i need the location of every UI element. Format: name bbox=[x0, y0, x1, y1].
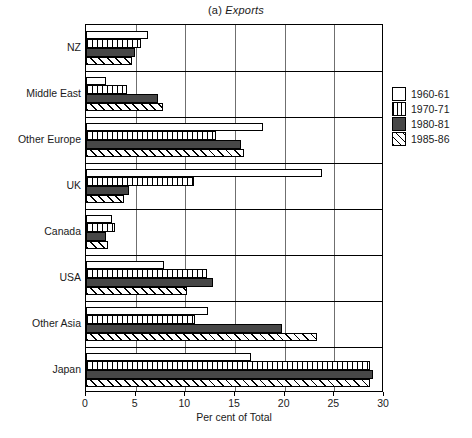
exports-bar-chart: (a) Exports NZMiddle EastOther EuropeUKC… bbox=[0, 0, 472, 438]
bar bbox=[86, 85, 127, 94]
bar bbox=[86, 333, 317, 342]
category-label: NZ bbox=[67, 41, 81, 53]
bar bbox=[86, 94, 158, 103]
bar-group bbox=[86, 209, 382, 255]
plot-area bbox=[85, 24, 383, 392]
legend-item: 1980-81 bbox=[392, 116, 468, 131]
x-tick-label: 25 bbox=[327, 397, 339, 409]
category-label: Canada bbox=[44, 225, 81, 237]
chart-legend: 1960-611970-711980-811985-86 bbox=[392, 86, 468, 146]
group-separator bbox=[86, 301, 382, 302]
legend-label: 1970-71 bbox=[411, 103, 450, 115]
group-separator bbox=[86, 255, 382, 256]
bar bbox=[86, 195, 124, 204]
x-tick bbox=[333, 392, 334, 396]
category-label: Other Asia bbox=[32, 317, 81, 329]
bar bbox=[86, 131, 216, 140]
x-tick bbox=[383, 392, 384, 396]
legend-swatch bbox=[392, 102, 406, 116]
x-tick bbox=[234, 392, 235, 396]
category-label: UK bbox=[66, 179, 81, 191]
bar bbox=[86, 379, 370, 388]
x-tick-label: 30 bbox=[377, 397, 389, 409]
chart-title: (a) Exports bbox=[0, 4, 472, 16]
x-tick-label: 10 bbox=[178, 397, 190, 409]
bar bbox=[86, 140, 241, 149]
category-label: Middle East bbox=[26, 87, 81, 99]
bar bbox=[86, 177, 194, 186]
bar-group bbox=[86, 301, 382, 347]
x-tick-label: 5 bbox=[132, 397, 138, 409]
bar bbox=[86, 169, 322, 178]
legend-label: 1980-81 bbox=[411, 118, 450, 130]
group-separator bbox=[86, 163, 382, 164]
x-axis-title: Per cent of Total bbox=[85, 411, 383, 423]
bar bbox=[86, 353, 251, 362]
bar bbox=[86, 103, 163, 112]
group-separator bbox=[86, 347, 382, 348]
category-label: Japan bbox=[52, 363, 81, 375]
x-tick-label: 15 bbox=[228, 397, 240, 409]
category-label: Other Europe bbox=[18, 133, 81, 145]
x-tick bbox=[184, 392, 185, 396]
bar bbox=[86, 31, 148, 40]
category-label: USA bbox=[59, 271, 81, 283]
group-separator bbox=[86, 117, 382, 118]
bar bbox=[86, 269, 207, 278]
bar bbox=[86, 215, 112, 224]
bar-group bbox=[86, 255, 382, 301]
bar bbox=[86, 278, 213, 287]
legend-item: 1960-61 bbox=[392, 86, 468, 101]
legend-swatch bbox=[392, 132, 406, 146]
bar bbox=[86, 123, 263, 132]
legend-label: 1985-86 bbox=[411, 133, 450, 145]
bar bbox=[86, 232, 106, 241]
bar-group bbox=[86, 25, 382, 71]
bar bbox=[86, 39, 141, 48]
bar bbox=[86, 261, 164, 270]
bar-group bbox=[86, 347, 382, 393]
bar-group bbox=[86, 117, 382, 163]
bar bbox=[86, 223, 115, 232]
bar bbox=[86, 77, 106, 86]
bar bbox=[86, 315, 195, 324]
category-axis-labels: NZMiddle EastOther EuropeUKCanadaUSAOthe… bbox=[0, 24, 81, 392]
bar bbox=[86, 324, 282, 333]
bar-group bbox=[86, 163, 382, 209]
bar bbox=[86, 48, 135, 57]
bar bbox=[86, 186, 129, 195]
chart-title-word: Exports bbox=[225, 4, 264, 16]
legend-swatch bbox=[392, 87, 406, 101]
x-tick-label: 0 bbox=[82, 397, 88, 409]
bar-group bbox=[86, 71, 382, 117]
bar bbox=[86, 57, 132, 66]
x-tick bbox=[284, 392, 285, 396]
bar bbox=[86, 241, 108, 250]
bar bbox=[86, 361, 370, 370]
bar bbox=[86, 307, 208, 316]
x-tick-label: 20 bbox=[278, 397, 290, 409]
legend-label: 1960-61 bbox=[411, 88, 450, 100]
bar bbox=[86, 149, 244, 158]
group-separator bbox=[86, 71, 382, 72]
legend-swatch bbox=[392, 117, 406, 131]
chart-title-prefix: (a) bbox=[208, 4, 222, 16]
legend-item: 1970-71 bbox=[392, 101, 468, 116]
bar bbox=[86, 370, 373, 379]
x-tick bbox=[85, 392, 86, 396]
group-separator bbox=[86, 209, 382, 210]
bar bbox=[86, 287, 187, 296]
legend-item: 1985-86 bbox=[392, 131, 468, 146]
x-tick bbox=[135, 392, 136, 396]
